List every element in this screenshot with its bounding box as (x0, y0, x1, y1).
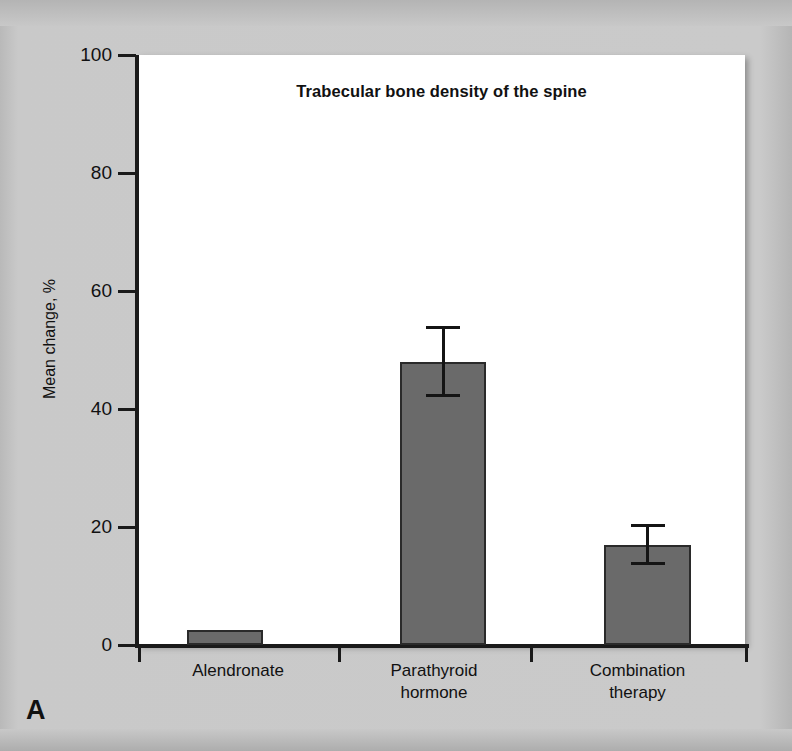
y-tick-label: 40 (56, 399, 112, 418)
category-label-line: Parathyroid (338, 660, 530, 682)
y-tick-mark (118, 54, 136, 57)
y-tick-label: 0 (56, 635, 112, 654)
error-cap-lower (631, 562, 665, 565)
y-tick-mark (118, 408, 136, 411)
category-label-3: Combinationtherapy (530, 660, 745, 704)
bar-1 (187, 630, 263, 645)
y-tick-mark (118, 526, 136, 529)
error-cap-lower (426, 394, 460, 397)
category-label-2: Parathyroidhormone (338, 660, 530, 704)
panel-letter: A (26, 695, 46, 726)
y-axis-ticks: 020406080100 (0, 0, 138, 751)
error-stem (442, 326, 445, 397)
error-stem (646, 524, 649, 565)
y-tick-label: 80 (56, 163, 112, 182)
category-label-line: Alendronate (138, 660, 338, 682)
y-tick-mark (118, 644, 136, 647)
error-bar-3 (604, 524, 691, 565)
y-tick-label: 100 (56, 45, 112, 64)
category-label-line: Combination (530, 660, 745, 682)
chart-title: Trabecular bone density of the spine (138, 82, 745, 101)
bar-2 (400, 362, 486, 645)
y-tick-label: 20 (56, 517, 112, 536)
category-label-1: Alendronate (138, 660, 338, 682)
x-tick-mark-3 (745, 648, 748, 662)
y-tick-label: 60 (56, 281, 112, 300)
y-tick-mark (118, 172, 136, 175)
error-bar-2 (400, 326, 486, 397)
figure-panel: Trabecular bone density of the spine Mea… (0, 0, 792, 751)
category-label-line: hormone (338, 682, 530, 704)
category-label-line: therapy (530, 682, 745, 704)
y-tick-mark (118, 290, 136, 293)
